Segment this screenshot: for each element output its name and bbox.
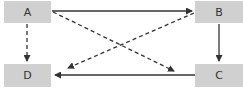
edge-a-c	[53, 12, 174, 71]
node-b: B	[195, 1, 243, 23]
node-c-label: C	[215, 69, 223, 82]
node-d: D	[4, 64, 51, 87]
node-b-label: B	[215, 6, 223, 19]
node-c: C	[195, 64, 243, 87]
node-a-label: A	[24, 6, 32, 19]
node-d-label: D	[23, 69, 31, 82]
edge-b-d	[68, 13, 194, 68]
node-a: A	[4, 1, 51, 23]
